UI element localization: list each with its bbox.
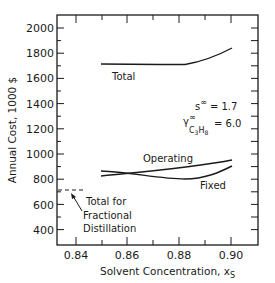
svg-text:γ∞: γ∞ [183,113,196,127]
y-axis-ticks-right [251,28,258,230]
svg-text:0.86: 0.86 [115,249,140,262]
svg-text:0.88: 0.88 [167,249,192,262]
svg-text:600: 600 [33,199,54,212]
svg-text:1800: 1800 [26,47,54,60]
annotation-gamma-infinity: γ∞ C3H8 = 6.0 [183,113,241,136]
label-operating: Operating [143,153,193,164]
label-fractional-distillation: Total for Fractional Distillation [83,196,136,234]
svg-text:Fractional: Fractional [83,210,132,221]
y-axis-label: Annual Cost, 1000 $ [6,77,18,184]
svg-text:1000: 1000 [26,148,54,161]
label-total: Total [111,71,135,82]
series-fixed-line [101,166,232,179]
y-tick-labels: 2000 1800 1600 1400 1200 1000 800 600 40… [26,22,54,237]
svg-text:0.90: 0.90 [219,249,244,262]
svg-text:1400: 1400 [26,98,54,111]
arrow-line [73,196,82,211]
arrow-head-icon [71,193,76,199]
x-axis-label: Solvent Concentration, xS [100,265,235,280]
svg-text:C3H8: C3H8 [189,126,208,136]
y-axis-ticks-left [57,28,64,230]
svg-text:= 6.0: = 6.0 [214,118,241,129]
x-tick-labels: 0.84 0.86 0.88 0.90 [64,249,244,262]
svg-text:0.84: 0.84 [64,249,89,262]
svg-text:800: 800 [33,173,54,186]
series-total-line [101,48,232,65]
svg-text:2000: 2000 [26,22,54,35]
svg-text:Distillation: Distillation [83,223,136,234]
svg-text:1600: 1600 [26,72,54,85]
svg-text:1200: 1200 [26,123,54,136]
annotation-s-infinity: s∞= 1.7 [195,98,237,112]
svg-text:s∞= 1.7: s∞= 1.7 [195,98,237,112]
svg-text:400: 400 [33,224,54,237]
label-fixed: Fixed [200,180,226,191]
svg-text:Total for: Total for [85,196,127,207]
chart: 2000 1800 1600 1400 1200 1000 800 600 40… [0,0,275,283]
